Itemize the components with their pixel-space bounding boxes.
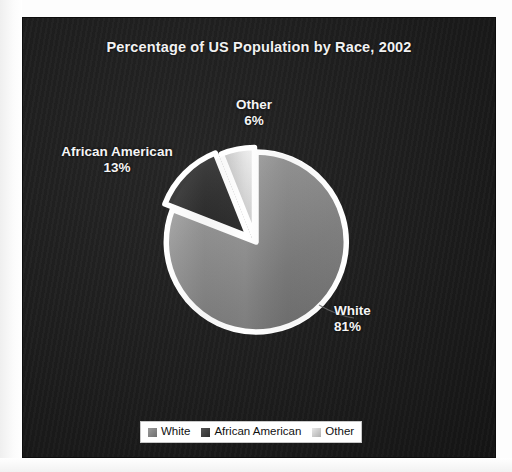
callout-other-label: Other — [236, 97, 272, 112]
chart-panel: Percentage of US Population by Race, 200… — [22, 17, 496, 458]
page-edge-shadow-left — [0, 0, 22, 472]
callout-african-american: African American 13% — [32, 144, 202, 177]
square-swatch-icon — [312, 428, 321, 437]
pie-svg — [22, 17, 496, 458]
square-swatch-icon — [148, 428, 157, 437]
legend-item-white-label: White — [161, 426, 190, 438]
legend-item-white[interactable]: White — [148, 426, 190, 438]
callout-other: Other 6% — [200, 97, 308, 130]
callout-white: White 81% — [334, 303, 434, 336]
callout-white-label: White — [334, 303, 371, 318]
chart-legend: White African American Other — [140, 421, 362, 443]
page-canvas: Percentage of US Population by Race, 200… — [0, 0, 512, 472]
legend-item-african-american[interactable]: African American — [201, 426, 301, 438]
legend-item-african-american-label: African American — [214, 426, 301, 438]
square-swatch-icon — [201, 428, 210, 437]
callout-african-american-label: African American — [61, 144, 172, 159]
legend-item-other-label: Other — [325, 426, 354, 438]
page-edge-shadow-bottom — [0, 458, 512, 472]
callout-african-american-value: 13% — [32, 160, 202, 176]
pie-chart — [22, 17, 496, 458]
callout-other-value: 6% — [200, 113, 308, 129]
callout-white-value: 81% — [334, 319, 434, 335]
legend-item-other[interactable]: Other — [312, 426, 354, 438]
